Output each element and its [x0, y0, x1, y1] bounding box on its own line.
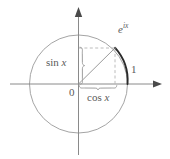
label-cos-x: cos x	[87, 92, 109, 103]
label-cos-arg: x	[104, 91, 109, 103]
point-marker-eix	[114, 47, 116, 49]
label-eix: eix	[118, 22, 128, 35]
label-sin-arg: x	[62, 56, 67, 68]
label-unit-one: 1	[131, 64, 137, 75]
diagram-canvas	[0, 0, 170, 159]
horizontal-brace-icon	[79, 85, 117, 90]
arrow-up-icon	[75, 7, 82, 17]
unit-circle-diagram: eix sin x cos x 1 0	[0, 0, 170, 159]
label-sin-fn: sin	[46, 56, 59, 68]
label-eix-exponent: ix	[123, 21, 128, 30]
arrow-right-icon	[153, 81, 162, 88]
label-sin-x: sin x	[46, 57, 66, 68]
label-origin-zero: 0	[69, 87, 75, 98]
label-cos-fn: cos	[87, 91, 102, 103]
